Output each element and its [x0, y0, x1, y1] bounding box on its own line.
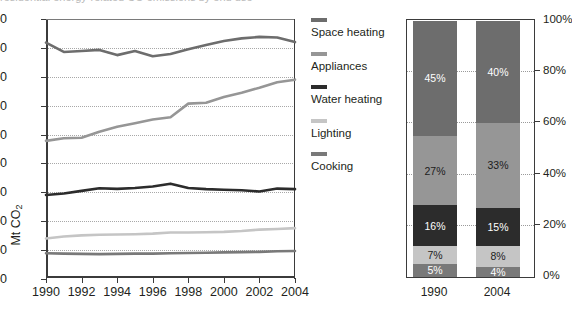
legend-swatch-icon: [311, 119, 327, 123]
y-axis-tick-label: 800: [0, 42, 7, 55]
bar-y-axis-tick-label: 0%: [543, 269, 560, 281]
bar-segment-water-heating[interactable]: 15%: [476, 208, 520, 246]
series-line-lighting: [46, 228, 295, 238]
bar-y-axis-tick-label: 60%: [543, 115, 566, 127]
line-series-layer: [46, 19, 295, 279]
legend-swatch-icon: [311, 85, 327, 89]
x-axis-tick-label: 1994: [103, 285, 131, 299]
bar-segment-water-heating[interactable]: 16%: [413, 205, 457, 246]
bar-x-axis-label: 1990: [421, 285, 448, 299]
y-axis-tick-label: 300: [0, 186, 7, 199]
x-axis-tick-label: 1998: [174, 285, 202, 299]
y-axis-tick-label: 200: [0, 215, 7, 228]
series-line-appliances: [46, 80, 295, 141]
y-axis-tick-label: 900: [0, 13, 7, 26]
bar-y-axis-tick-mark: [535, 121, 540, 122]
stacked-bar-chart: 5%7%16%27%45%4%8%15%33%40% 100%80%60%40%…: [398, 0, 569, 309]
y-axis-tick-label: 0: [0, 273, 7, 286]
bar-segment-appliances[interactable]: 27%: [413, 136, 457, 205]
legend-item[interactable]: Cooking: [311, 152, 403, 182]
bar-y-axis-tick-mark: [535, 70, 540, 71]
y-axis-title: Mt CO2: [9, 195, 23, 255]
bar-segment-space-heating[interactable]: 45%: [413, 21, 457, 136]
legend-item[interactable]: Space heating: [311, 18, 403, 48]
bar-segment-lighting[interactable]: 7%: [413, 246, 457, 264]
x-axis-tick-mark: [295, 278, 296, 283]
legend-item[interactable]: Lighting: [311, 119, 403, 149]
legend-swatch-icon: [311, 18, 327, 22]
x-axis-tick-label: 1992: [68, 285, 96, 299]
bar-segment-cooking[interactable]: 5%: [413, 264, 457, 277]
series-line-water-heating: [46, 184, 295, 195]
line-chart: Mt CO2 900800700600500400300200100019901…: [0, 0, 310, 309]
y-axis-tick-label: 400: [0, 157, 7, 170]
bar-segment-space-heating[interactable]: 40%: [476, 21, 520, 123]
bar-y-axis-tick-mark: [535, 224, 540, 225]
bar-plot-area: 5%7%16%27%45%4%8%15%33%40%: [406, 19, 535, 278]
stacked-bar-1990[interactable]: 5%7%16%27%45%: [413, 20, 457, 277]
legend-item-label: Space heating: [311, 26, 385, 39]
legend-item-label: Water heating: [311, 93, 382, 106]
y-axis-tick-label: 100: [0, 244, 7, 257]
bar-segment-appliances[interactable]: 33%: [476, 123, 520, 207]
bar-x-axis-label: 2004: [484, 285, 511, 299]
y-axis-title-subscript: 2: [14, 204, 24, 209]
y-axis-title-text: Mt CO: [9, 209, 23, 245]
bar-segment-lighting[interactable]: 8%: [476, 246, 520, 266]
legend: Space heatingAppliancesWater heatingLigh…: [311, 18, 401, 198]
legend-item-label: Cooking: [311, 160, 353, 173]
x-axis-tick-label: 2004: [281, 285, 309, 299]
stacked-bar-2004[interactable]: 4%8%15%33%40%: [476, 20, 520, 277]
bar-y-axis-tick-label: 100%: [543, 13, 572, 25]
legend-swatch-icon: [311, 52, 327, 56]
bar-y-axis-tick-label: 40%: [543, 167, 566, 179]
y-axis-tick-label: 500: [0, 128, 7, 141]
legend-swatch-icon: [311, 152, 327, 156]
legend-item[interactable]: Appliances: [311, 52, 403, 82]
legend-item-label: Appliances: [311, 60, 367, 73]
bar-y-axis-tick-label: 80%: [543, 64, 566, 76]
bar-y-axis-tick-label: 20%: [543, 218, 566, 230]
x-axis-tick-label: 2000: [210, 285, 238, 299]
series-line-cooking: [46, 251, 295, 254]
x-axis-tick-label: 1990: [32, 285, 60, 299]
legend-item[interactable]: Water heating: [311, 85, 403, 115]
bar-segment-cooking[interactable]: 4%: [476, 267, 520, 277]
legend-item-label: Lighting: [311, 127, 351, 140]
bar-y-axis-tick-mark: [535, 173, 540, 174]
y-axis-tick-label: 700: [0, 71, 7, 84]
series-line-space-heating: [46, 37, 295, 56]
y-axis-tick-label: 600: [0, 99, 7, 112]
x-axis-tick-label: 1996: [139, 285, 167, 299]
x-axis-tick-label: 2002: [246, 285, 274, 299]
